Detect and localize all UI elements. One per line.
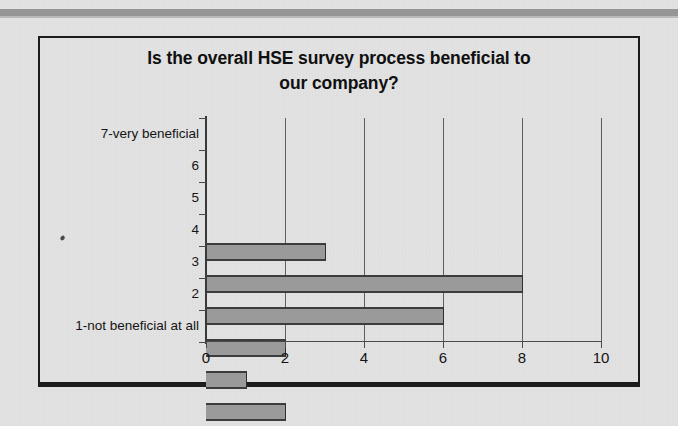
y-axis-label-1: 6 <box>191 159 199 173</box>
chart-title-line-1: Is the overall HSE survey process benefi… <box>56 46 622 71</box>
y-axis-label-6: 1-not beneficial at all <box>75 319 199 333</box>
x-tick-label-8: 8 <box>492 350 552 365</box>
page-top-band <box>0 9 678 16</box>
y-tick-2 <box>199 214 206 215</box>
y-axis-label-4: 3 <box>191 255 199 269</box>
gridline-x-8 <box>522 118 523 342</box>
chart-title: Is the overall HSE survey process benefi… <box>56 46 622 96</box>
y-tick-1 <box>199 182 206 183</box>
y-axis-label-3: 4 <box>191 223 199 237</box>
chart-title-line-2: our company? <box>56 71 622 96</box>
y-tick-0 <box>199 150 206 151</box>
bar-4 <box>206 371 247 389</box>
y-tick-3 <box>199 246 206 247</box>
y-tick-4 <box>199 278 206 279</box>
x-tick-label-6: 6 <box>413 350 473 365</box>
x-tick-label-2: 2 <box>255 350 315 365</box>
y-tick-top <box>199 118 206 119</box>
chart-frame-bottom-edge <box>38 384 640 387</box>
y-axis-label-2: 5 <box>191 191 199 205</box>
bar-1 <box>206 275 523 293</box>
bar-0 <box>206 243 326 261</box>
y-axis-label-5: 2 <box>191 287 199 301</box>
x-tick-label-10: 10 <box>571 350 631 365</box>
x-tick-4 <box>364 342 365 348</box>
y-tick-5 <box>199 310 206 311</box>
bar-5 <box>206 403 286 421</box>
x-tick-10 <box>601 342 602 348</box>
x-tick-2 <box>285 342 286 348</box>
y-tick-6 <box>199 342 206 343</box>
x-tick-6 <box>443 342 444 348</box>
bar-2 <box>206 307 444 325</box>
page-top-band-shadow <box>0 16 678 18</box>
x-tick-8 <box>522 342 523 348</box>
y-axis-label-0: 7-very beneficial <box>101 127 199 141</box>
x-tick-label-4: 4 <box>334 350 394 365</box>
y-axis-category-labels: 7-very beneficial654321-not beneficial a… <box>0 118 199 342</box>
x-axis-line <box>206 341 602 342</box>
x-tick-0 <box>206 342 207 348</box>
plot-area <box>206 118 601 342</box>
x-tick-label-0: 0 <box>176 350 236 365</box>
gridline-x-10 <box>601 118 602 342</box>
